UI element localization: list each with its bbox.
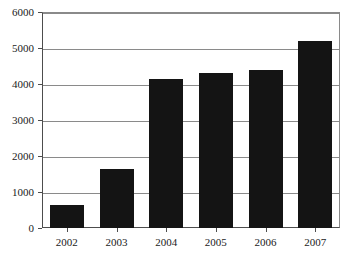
bar: [100, 169, 134, 228]
x-tick-mark: [166, 228, 167, 232]
y-tick-label: 0: [29, 223, 35, 234]
x-tick-mark: [216, 228, 217, 232]
x-tick-label: 2002: [56, 236, 78, 248]
bars-layer: [42, 12, 340, 228]
x-tick-label: 2003: [106, 236, 128, 248]
bar-chart: 0100020003000400050006000 20022003200420…: [0, 0, 352, 261]
x-tick-label: 2006: [255, 236, 277, 248]
y-tick-label: 3000: [12, 115, 34, 126]
x-tick-label: 2004: [155, 236, 177, 248]
x-tick-label: 2007: [304, 236, 326, 248]
y-axis: 0100020003000400050006000: [0, 0, 42, 261]
bar: [149, 79, 183, 228]
x-tick-label: 2005: [205, 236, 227, 248]
bar: [298, 41, 332, 228]
x-tick-mark: [315, 228, 316, 232]
bar: [249, 70, 283, 228]
y-tick-label: 6000: [12, 7, 34, 18]
bar: [199, 73, 233, 228]
y-tick-label: 5000: [12, 43, 34, 54]
y-tick-label: 1000: [12, 187, 34, 198]
x-tick-mark: [117, 228, 118, 232]
bar: [50, 205, 84, 228]
x-axis: 200220032004200520062007: [42, 228, 340, 261]
x-tick-mark: [67, 228, 68, 232]
y-tick-label: 2000: [12, 151, 34, 162]
y-tick-label: 4000: [12, 79, 34, 90]
x-tick-mark: [266, 228, 267, 232]
